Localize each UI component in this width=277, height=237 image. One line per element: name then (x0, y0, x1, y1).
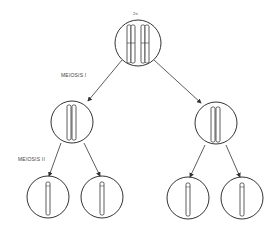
gamete-cell-4 (221, 177, 263, 219)
arrow-meiosis2-3 (190, 145, 205, 177)
meiosis-1-label: MEIOSIS I (61, 72, 86, 78)
parent-cell (115, 20, 161, 66)
gamete-cell-3 (167, 177, 209, 219)
chromosome-pair-2 (141, 25, 149, 63)
gamete-cell-2 (81, 176, 123, 218)
meiosis-diagram (0, 0, 277, 237)
gamete-cell-1 (27, 176, 69, 218)
daughter-cell-right (195, 102, 237, 144)
arrow-meiosis2-2 (84, 143, 100, 176)
daughter-cell-left (51, 101, 93, 143)
meiosis-2-label: MEIOSIS II (18, 156, 45, 162)
top-label: 2n (133, 11, 138, 16)
arrow-meiosis1-right (154, 60, 201, 103)
arrow-meiosis2-1 (49, 143, 61, 176)
chromosome-pair-1 (127, 25, 135, 63)
arrow-meiosis1-left (88, 60, 122, 101)
arrow-meiosis2-4 (226, 145, 240, 177)
